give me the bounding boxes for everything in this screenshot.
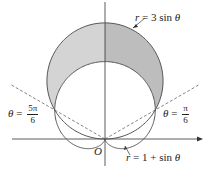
x-axis-arrow-icon bbox=[197, 137, 203, 142]
circle-equation-label: r = 3 sin θ bbox=[135, 12, 180, 23]
angle-label-5pi-6: θ = 5π6 bbox=[8, 104, 38, 125]
origin-label: O bbox=[94, 146, 102, 157]
polar-plot bbox=[0, 0, 208, 169]
cardioid-equation-label: r = 1 + sin θ bbox=[126, 152, 180, 163]
angle-label-pi-6: θ = π6 bbox=[163, 104, 189, 125]
polar-area-figure: r = 3 sin θ r = 1 + sin θ θ = 5π6 θ = π6… bbox=[0, 0, 208, 169]
shaded-region-right bbox=[105, 23, 163, 110]
shaded-region-left bbox=[47, 23, 105, 110]
